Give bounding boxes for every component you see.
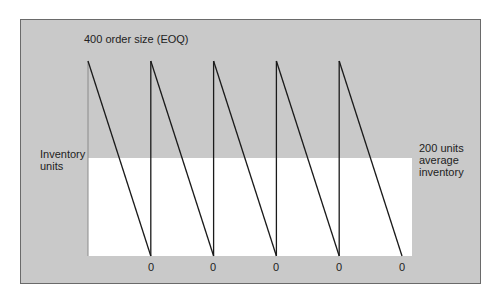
zero-label: 0 — [270, 261, 282, 273]
depletion-line — [151, 61, 214, 256]
depletion-line — [88, 61, 151, 256]
eoq-inventory-diagram: 400 order size (EOQ) Inventory units 200… — [0, 0, 499, 302]
depletion-line — [276, 61, 339, 256]
order-size-label: 400 order size (EOQ) — [84, 33, 189, 45]
inventory-units-label: Inventory units — [40, 148, 85, 172]
depletion-line — [214, 61, 277, 256]
depletion-line — [339, 61, 402, 256]
zero-label: 0 — [333, 261, 345, 273]
zero-label: 0 — [207, 261, 219, 273]
zero-label: 0 — [145, 261, 157, 273]
average-inventory-label: 200 units average inventory — [419, 142, 464, 178]
zero-label: 0 — [396, 261, 408, 273]
